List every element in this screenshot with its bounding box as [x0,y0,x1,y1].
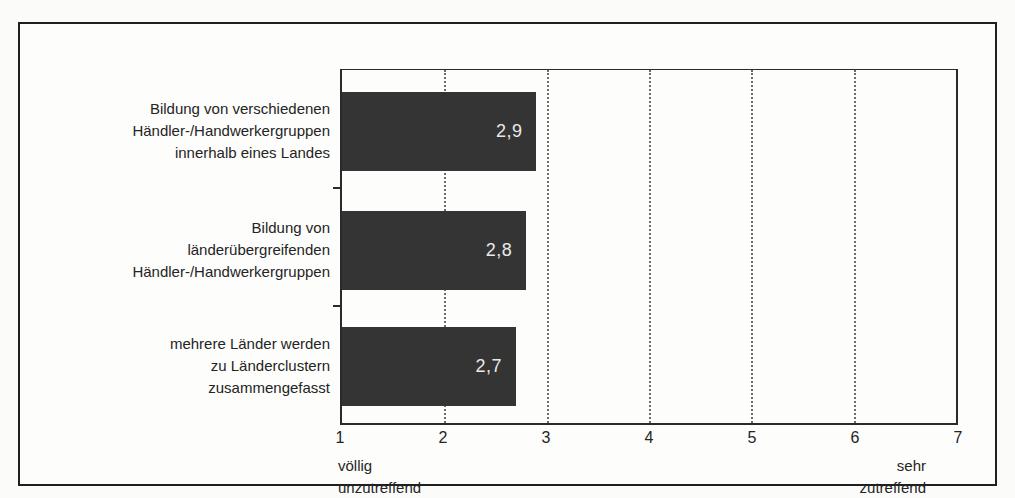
bar-value-label: 2,9 [496,92,537,171]
x-tick-label: 6 [851,429,860,447]
category-label-line: Händler-/Handwerkergruppen [50,120,330,142]
category-label-line: innerhalb eines Landes [50,142,330,164]
x-tick-label: 2 [439,429,448,447]
gridline [547,70,549,423]
chart-frame: 2,9 2,8 2,7 Bildung von verschiedenen Hä… [18,22,997,486]
x-tick-label: 7 [954,429,963,447]
gridline [751,70,753,423]
bar-value-label: 2,7 [475,327,516,406]
x-axis-max-caption: sehr zutreffend [860,455,926,498]
category-label: mehrere Länder werden zu Länderclustern … [50,333,330,399]
gridline [854,70,856,423]
bar-laenderuebergreifende-gruppen: 2,8 [342,211,526,290]
x-tick-label: 3 [542,429,551,447]
x-axis-min-caption: völlig unzutreffend [338,455,421,498]
category-label-line: Händler-/Handwerkergruppen [50,261,330,283]
bar-laendercluster: 2,7 [342,327,516,406]
y-axis-tick [333,305,341,307]
category-label: Bildung von länderübergreifenden Händler… [50,217,330,283]
bar-value-label: 2,8 [486,211,527,290]
category-label-line: Bildung von verschiedenen [50,98,330,120]
x-axis-min-caption-line: unzutreffend [338,477,421,498]
x-axis-max-caption-line: sehr [860,455,926,477]
x-tick-label: 4 [645,429,654,447]
category-label: Bildung von verschiedenen Händler-/Handw… [50,98,330,164]
figure-page: { "chart_data": { "type": "bar", "orient… [0,0,1015,498]
gridline [649,70,651,423]
y-axis-tick [333,187,341,189]
category-label-line: zu Länderclustern [50,355,330,377]
x-axis-min-caption-line: völlig [338,455,421,477]
x-axis-tick-labels: 1234567 [340,429,958,449]
x-tick-label: 1 [336,429,345,447]
category-label-line: zusammengefasst [50,377,330,399]
category-label-line: Bildung von [50,217,330,239]
category-label-line: mehrere Länder werden [50,333,330,355]
bar-haendlergruppen-innerhalb-landes: 2,9 [342,92,536,171]
x-tick-label: 5 [748,429,757,447]
x-axis-max-caption-line: zutreffend [860,477,926,498]
category-label-line: länderübergreifenden [50,239,330,261]
plot-area: 2,9 2,8 2,7 [340,69,958,425]
